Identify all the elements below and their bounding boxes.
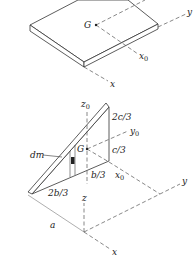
- label-b-over-3: b/3: [91, 170, 106, 180]
- x-axis: [84, 67, 108, 81]
- label-z0: z0: [80, 99, 90, 111]
- label-x-bottom: x: [112, 247, 117, 257]
- y-axis-bottom: [84, 184, 180, 232]
- mass-element-dm: [71, 157, 75, 164]
- label-x0: x0: [139, 51, 148, 63]
- label-2b-over-3: 2b/3: [47, 188, 69, 198]
- label-G: G: [84, 20, 91, 30]
- label-y-bottom: y: [181, 176, 188, 186]
- label-dm: dm: [30, 150, 44, 160]
- label-G-triangle: G: [77, 144, 84, 154]
- y-axis: [158, 14, 186, 27]
- rigid-body-diagram: G y x0 x z0 2c/3 y0 c/3 G dm b/3 x0: [0, 0, 196, 271]
- rectangular-plate-figure: G y x0 x: [30, 0, 193, 89]
- label-z: z: [81, 193, 87, 203]
- x-axis-bottom: [84, 232, 110, 249]
- label-y0: y0: [129, 126, 139, 138]
- label-c-over-3: c/3: [112, 145, 126, 155]
- triangular-plate-figure: z0 2c/3 y0 c/3 G dm b/3 x0 2b/3 z y a x: [28, 99, 188, 257]
- label-x: x: [110, 79, 115, 89]
- label-x0-triangle: x0: [115, 170, 124, 182]
- label-y: y: [186, 7, 193, 17]
- centroid-point: [86, 148, 88, 150]
- label-2c-over-3: 2c/3: [111, 112, 132, 122]
- edge-a-line: [28, 195, 84, 232]
- label-a: a: [50, 220, 55, 230]
- center-of-mass-point: [95, 24, 97, 26]
